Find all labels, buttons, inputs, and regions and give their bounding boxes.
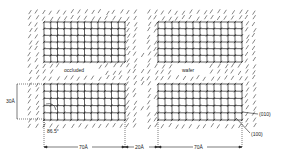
label-height: 30Å	[6, 98, 15, 104]
label-width-left: 70Å	[79, 144, 88, 150]
leader-010	[242, 112, 258, 114]
lattice-diagram	[0, 0, 285, 159]
label-width-right: 70Å	[194, 144, 203, 150]
label-face-100: (100)	[251, 131, 263, 137]
lattice-domain-top-right	[157, 21, 243, 63]
label-gap: 20Å	[135, 144, 144, 150]
label-occluded: occluded	[64, 67, 84, 73]
dimension-lines	[17, 84, 258, 148]
label-wafer: wafer	[182, 67, 194, 73]
label-face-010: (010)	[259, 111, 271, 117]
lattice-domain-bottom-right	[157, 83, 243, 121]
leader-100	[236, 118, 250, 133]
label-angle: 86.5°	[47, 128, 59, 134]
lattice-domain-top-left	[43, 21, 126, 63]
lattice-domain-bottom-left	[43, 83, 126, 121]
lipid-hatching	[28, 9, 257, 129]
